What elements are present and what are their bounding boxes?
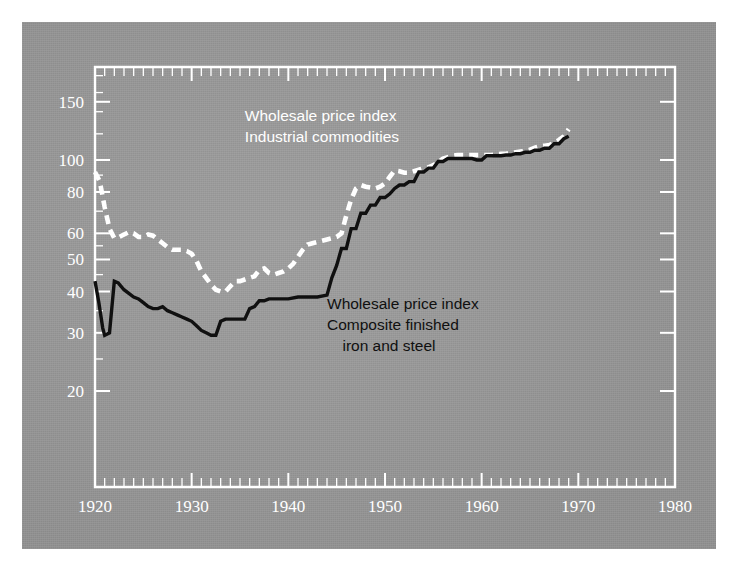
figure-page: 150100806050403020 192019301940195019601… — [0, 0, 738, 565]
x-axis-tick-label: 1950 — [368, 497, 402, 516]
legend-iron-and-steel-line-2: Composite finished — [327, 316, 459, 333]
x-axis-tick-label: 1930 — [175, 497, 209, 516]
y-axis-tick-label: 60 — [67, 224, 84, 243]
legend-iron-and-steel-line-1: Wholesale price index — [327, 295, 479, 312]
chart-annotations: Wholesale price indexIndustrial commodit… — [245, 107, 479, 353]
price-index-chart: 150100806050403020 192019301940195019601… — [0, 0, 738, 565]
y-axis-tick-label: 50 — [67, 250, 84, 269]
y-axis-tick-label: 80 — [67, 183, 84, 202]
x-axis-tick-labels: 1920193019401950196019701980 — [78, 497, 692, 516]
y-axis-tick-labels: 150100806050403020 — [59, 93, 85, 401]
series-industrial-commodities — [95, 129, 569, 291]
x-axis-tick-label: 1960 — [465, 497, 499, 516]
y-axis-tick-label: 40 — [67, 283, 84, 302]
y-axis-tick-label: 20 — [67, 382, 84, 401]
legend-industrial-commodities-line-2: Industrial commodities — [245, 128, 399, 145]
y-axis-tick-label: 100 — [59, 151, 85, 170]
x-axis-tick-label: 1980 — [658, 497, 692, 516]
y-axis-tick-label: 30 — [67, 324, 84, 343]
x-axis-tick-label: 1920 — [78, 497, 112, 516]
x-axis-tick-label: 1940 — [271, 497, 305, 516]
y-axis-tick-label: 150 — [59, 93, 85, 112]
x-axis-tick-label: 1970 — [561, 497, 595, 516]
legend-industrial-commodities-line-1: Wholesale price index — [245, 107, 397, 124]
legend-iron-and-steel-line-3: iron and steel — [342, 337, 435, 354]
